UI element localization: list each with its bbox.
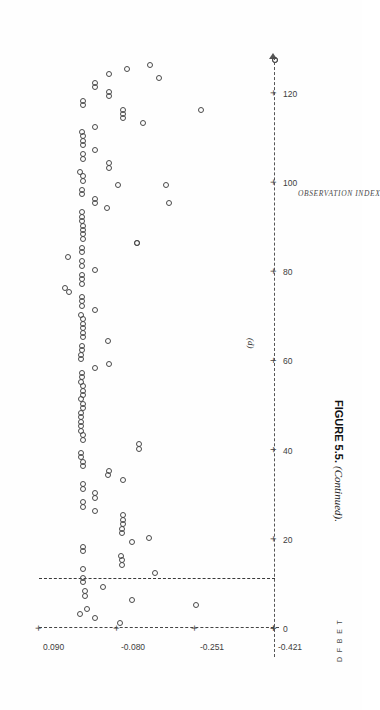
data-point — [106, 89, 112, 95]
data-point — [79, 272, 85, 278]
data-point — [147, 62, 153, 68]
data-point — [140, 120, 146, 126]
scatter-plot: 020406080100120 0.090-0.080-0.251-0.421 … — [31, 35, 331, 675]
x-tick-label: 80 — [283, 267, 292, 277]
data-point — [117, 620, 123, 626]
data-point — [92, 615, 98, 621]
y-axis-title: D F B E T — [336, 619, 343, 662]
chart-stage: 020406080100120 0.090-0.080-0.251-0.421 … — [31, 35, 331, 675]
data-point — [92, 80, 98, 86]
data-point — [80, 566, 86, 572]
data-point — [80, 544, 86, 550]
data-point — [106, 160, 112, 166]
x-tick-label: 0 — [283, 624, 288, 634]
x-tick — [270, 88, 279, 97]
caption-note: (Continued). — [333, 466, 345, 522]
data-point — [106, 361, 112, 367]
figure-caption: FIGURE 5.5. (Continued). — [333, 400, 345, 522]
data-point — [115, 182, 121, 188]
y-tick-label: -0.080 — [121, 642, 145, 652]
data-point — [84, 606, 90, 612]
data-point — [92, 124, 98, 130]
data-point — [92, 196, 98, 202]
data-point — [105, 339, 111, 345]
panel-letter: (d) — [246, 338, 256, 349]
data-point — [65, 254, 71, 260]
y-tick — [270, 624, 279, 633]
data-point — [77, 169, 83, 175]
data-point — [193, 602, 199, 608]
data-point — [124, 66, 130, 72]
data-point — [62, 285, 68, 291]
zero-reference-line — [39, 578, 275, 579]
data-point — [120, 477, 126, 483]
y-tick-label: -0.421 — [278, 642, 302, 652]
data-point-outlier — [166, 200, 172, 206]
data-point — [129, 597, 135, 603]
data-point-outlier — [272, 57, 278, 63]
x-tick-label: 100 — [283, 178, 297, 188]
x-tick — [270, 534, 279, 543]
data-point-outlier — [198, 107, 204, 113]
y-axis-line — [39, 627, 279, 628]
x-tick-label: 120 — [283, 89, 297, 99]
x-tick — [270, 445, 279, 454]
data-point — [120, 107, 126, 113]
y-tick-label: -0.251 — [200, 642, 224, 652]
data-point — [129, 539, 135, 545]
data-point — [100, 584, 106, 590]
data-point — [77, 611, 83, 617]
data-point — [152, 570, 158, 576]
data-point — [156, 75, 162, 81]
data-point — [106, 71, 112, 77]
x-tick-label: 60 — [283, 356, 292, 366]
data-point — [136, 441, 142, 447]
data-point — [92, 267, 98, 273]
x-tick-label: 40 — [283, 446, 292, 456]
data-point — [146, 535, 152, 541]
data-point-outlier — [163, 182, 169, 188]
data-point — [104, 205, 110, 211]
data-point — [92, 147, 98, 153]
data-point — [80, 98, 86, 104]
x-tick — [270, 356, 279, 365]
data-point — [92, 365, 98, 371]
x-axis-title: OBSERVATION INDEX — [298, 189, 380, 198]
caption-label: FIGURE 5.5. — [333, 400, 345, 463]
data-point — [92, 508, 98, 514]
data-point-outlier — [134, 240, 140, 246]
data-point — [92, 307, 98, 313]
data-point — [106, 468, 112, 474]
x-tick — [270, 267, 279, 276]
y-tick — [35, 624, 44, 633]
y-tick-label: 0.090 — [43, 642, 64, 652]
y-tick — [191, 624, 200, 633]
data-point — [118, 553, 124, 559]
x-tick-label: 20 — [283, 535, 292, 545]
x-tick — [270, 177, 279, 186]
